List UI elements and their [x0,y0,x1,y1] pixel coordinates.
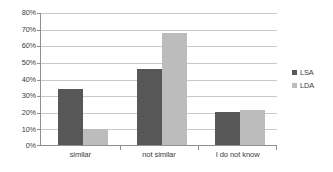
bar-group-not-similar [120,13,199,145]
bar-lsa-i-do-not-know[interactable] [215,112,240,145]
plot-area [41,13,277,146]
bar-group-i-do-not-know [198,13,277,145]
y-tick-label: 30% [22,92,36,100]
legend-swatch-icon [292,83,297,88]
legend: LSA LDA [292,66,333,92]
x-tick-label-i-do-not-know: I do not know [198,150,277,159]
bar-lda-i-do-not-know[interactable] [240,110,265,145]
y-tick-label: 20% [22,109,36,117]
y-tick-label: 60% [22,42,36,50]
legend-label: LDA [300,82,314,90]
y-tick-label: 70% [22,26,36,34]
legend-label: LSA [300,69,314,77]
bar-group-similar [41,13,120,145]
legend-swatch-icon [292,70,297,75]
y-axis-labels: 80% 70% 60% 50% 40% 30% 20% 10% 0% [0,0,40,172]
x-tick-label-similar: similar [41,150,120,159]
y-tick-label: 10% [22,126,36,134]
x-axis-labels: similar not similar I do not know [41,150,277,168]
bar-lsa-not-similar[interactable] [137,69,162,145]
y-tick-label: 40% [22,76,36,84]
y-tick-label: 80% [22,9,36,17]
x-tick-label-not-similar: not similar [120,150,199,159]
y-tick-label: 0% [26,142,36,150]
y-tick-label: 50% [22,59,36,67]
bar-lsa-similar[interactable] [58,89,83,145]
legend-item-lda[interactable]: LDA [292,79,333,92]
bar-chart: 80% 70% 60% 50% 40% 30% 20% 10% 0% [0,0,333,172]
bar-lda-not-similar[interactable] [162,33,187,145]
legend-item-lsa[interactable]: LSA [292,66,333,79]
x-axis-line [41,145,277,146]
bar-lda-similar[interactable] [83,129,108,146]
